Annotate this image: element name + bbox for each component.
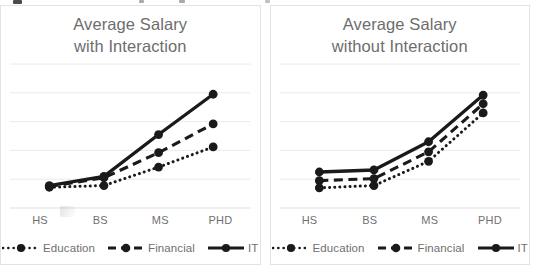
top-edge-artifact-c: [179, 0, 185, 3]
x-axis-labels-left: HS BS MS PHD: [10, 211, 251, 229]
top-edge-artifact-d: [265, 0, 270, 3]
top-edge-artifact-b: [139, 0, 144, 3]
chart-title-left: Average Salary with Interaction: [1, 14, 260, 58]
legend-item-financial[interactable]: Financial: [107, 242, 195, 254]
legend-label-it: IT: [518, 242, 528, 254]
legend-swatch-dashed-icon: [107, 242, 145, 254]
legend-item-it[interactable]: IT: [477, 242, 528, 254]
x-tick-hs: HS: [280, 214, 340, 226]
x-axis-labels-right: HS BS MS PHD: [280, 211, 521, 229]
legend-item-education[interactable]: Education: [2, 242, 95, 254]
x-tick-bs: BS: [70, 214, 130, 226]
x-tick-phd: PHD: [460, 214, 520, 226]
legend-swatch-solid-icon: [207, 242, 245, 254]
legend-label-financial: Financial: [148, 242, 195, 254]
chart-panel-with-interaction: Average Salary with Interaction HS BS MS…: [0, 5, 261, 265]
legend-swatch-dotted-icon: [2, 242, 40, 254]
legend-label-education: Education: [43, 242, 95, 254]
plot-area-right: [280, 62, 521, 210]
x-tick-bs: BS: [340, 214, 400, 226]
legend-right: Education Financial IT: [271, 242, 530, 254]
x-tick-phd: PHD: [190, 214, 250, 226]
top-edge-artifact-a: [13, 0, 22, 4]
figure-container: Average Salary with Interaction HS BS MS…: [0, 0, 539, 269]
legend-item-financial[interactable]: Financial: [377, 242, 465, 254]
legend-swatch-solid-icon: [477, 242, 515, 254]
legend-swatch-dotted-icon: [272, 242, 310, 254]
x-tick-ms: MS: [130, 214, 190, 226]
x-tick-ms: MS: [400, 214, 460, 226]
legend-left: Education Financial IT: [1, 242, 260, 254]
legend-swatch-dashed-icon: [377, 242, 415, 254]
chart-title-right: Average Salary without Interaction: [271, 14, 530, 58]
chart-panel-without-interaction: Average Salary without Interaction HS BS…: [270, 5, 531, 265]
legend-item-it[interactable]: IT: [207, 242, 258, 254]
legend-item-education[interactable]: Education: [272, 242, 365, 254]
x-tick-hs: HS: [10, 214, 70, 226]
legend-label-education: Education: [313, 242, 365, 254]
legend-label-financial: Financial: [418, 242, 465, 254]
plot-area-left: [10, 62, 251, 210]
legend-label-it: IT: [248, 242, 258, 254]
